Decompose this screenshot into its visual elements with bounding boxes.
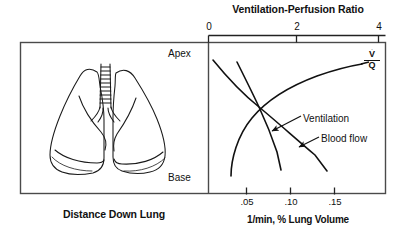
blood-flow-annotation-label: Blood flow [321,133,367,144]
lung-left-lobe [113,70,165,173]
vq-ratio-label: · V Q [364,48,380,70]
figure-canvas: Ventilation-Perfusion Ratio [0,0,403,240]
top-tick-label-0: 0 [199,21,219,32]
ventilation-annotation-label: Ventilation [303,113,349,124]
ventilation-leader [272,116,301,131]
base-label: Base [168,172,191,183]
lung-illustration [50,64,165,174]
ventilation-curve [237,62,281,170]
left-panel-caption: Distance Down Lung [20,208,208,220]
top-axis [209,36,386,43]
bottom-tick-label-10: .10 [278,196,304,207]
apex-label: Apex [168,48,191,59]
bottom-tick-label-15: .15 [322,196,348,207]
top-tick-label-2: 2 [287,21,307,32]
top-tick-label-4: 4 [369,21,389,32]
vq-denominator: Q [364,61,380,70]
blood-flow-leader [299,137,319,147]
bottom-tick-label-05: .05 [234,196,260,207]
bottom-axis-caption: 1/min, % Lung Volume [208,214,388,225]
vq-numerator: V [364,50,380,59]
